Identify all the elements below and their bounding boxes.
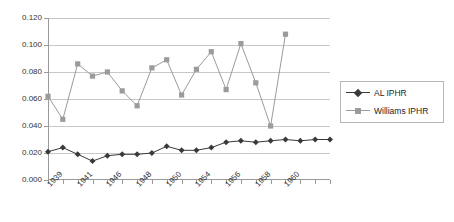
x-tick-mark: [211, 180, 212, 184]
legend-entry-al-iphr[interactable]: AL IPHR: [346, 87, 407, 99]
y-tick-label: 0.020: [0, 149, 42, 157]
x-tick-mark: [182, 180, 183, 184]
legend-label-al-iphr: AL IPHR: [374, 89, 407, 98]
x-tick-mark: [152, 180, 153, 184]
legend-marker-diamond-icon: [346, 88, 370, 98]
chart-container: 0.0000.0200.0400.0600.0800.1000.120 1939…: [0, 0, 454, 222]
plot-frame: [48, 18, 330, 180]
y-tick-label: 0.120: [0, 14, 42, 22]
y-tick-label: 0.040: [0, 122, 42, 130]
x-tick-mark: [93, 180, 94, 184]
y-tick-label: 0.100: [0, 41, 42, 49]
x-tick-mark: [300, 180, 301, 184]
chart-legend: AL IPHR Williams IPHR: [340, 81, 444, 123]
y-tick-label: 0.060: [0, 95, 42, 103]
y-tick-label: 0.000: [0, 176, 42, 184]
x-tick-mark: [241, 180, 242, 184]
x-tick-mark: [315, 180, 316, 184]
x-tick-mark: [330, 180, 331, 184]
legend-marker-square-icon: [346, 106, 370, 116]
y-tick-label: 0.080: [0, 68, 42, 76]
x-tick-mark: [122, 180, 123, 184]
x-tick-mark: [271, 180, 272, 184]
legend-label-williams-iphr: Williams IPHR: [374, 107, 428, 116]
legend-entry-williams-iphr[interactable]: Williams IPHR: [346, 105, 428, 117]
x-tick-mark: [63, 180, 64, 184]
